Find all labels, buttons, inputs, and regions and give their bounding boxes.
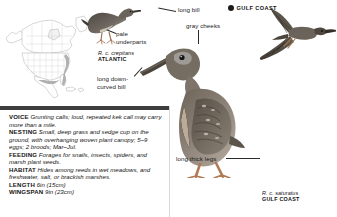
subspecies-caption-atlantic: R. c. crepitans ATLANTIC <box>98 50 134 63</box>
subspecies-gulf-region: GULF COAST <box>262 196 300 202</box>
leader-line-long-bill <box>158 8 176 12</box>
subspecies-caption-gulf: R. c. saturatus GULF COAST <box>262 190 300 203</box>
info-row: HABITAT Hides among reeds in wet meadows… <box>9 166 164 181</box>
info-row-term: FEEDING <box>9 151 37 158</box>
info-panel-rows: VOICE Grunting calls; loud, repeated kek… <box>0 110 170 196</box>
info-panel-right-edge <box>169 106 170 217</box>
info-row: VOICE Grunting calls; loud, repeated kek… <box>9 113 164 128</box>
field-guide-page: long bill pale underparts long down- cur… <box>0 0 337 217</box>
info-row-term: WINGSPAN <box>9 188 43 195</box>
info-row-desc: 9in (23cm) <box>45 188 74 195</box>
info-row-term: NESTING <box>9 128 37 135</box>
info-row-term: LENGTH <box>9 181 35 188</box>
info-row-desc: 6in (15cm) <box>37 181 66 188</box>
bird-illustration-gulf-coast-flying <box>258 4 336 66</box>
info-row-term: VOICE <box>9 113 29 120</box>
info-row: LENGTH 6in (15cm) <box>9 181 164 189</box>
callout-long-down-curved-bill: long down- curved bill <box>97 75 128 90</box>
callout-pale-underparts: pale underparts <box>116 30 146 45</box>
info-row-desc: Grunting calls; loud, repeated kek call … <box>9 113 161 128</box>
leader-line-long-thick-legs <box>226 158 260 159</box>
gulf-coast-marker-label: GULF COAST <box>237 5 277 11</box>
callout-long-bill: long bill <box>178 6 200 14</box>
species-info-panel: VOICE Grunting calls; loud, repeated kek… <box>0 106 170 217</box>
callout-gray-cheeks: gray cheeks <box>186 22 220 30</box>
callout-long-thick-legs: long thick legs <box>176 155 216 163</box>
gulf-coast-marker: GULF COAST <box>228 5 277 11</box>
leader-line-gray-cheeks <box>198 30 199 44</box>
info-row-term: HABITAT <box>9 166 36 173</box>
info-row: FEEDING Forages for snails, insects, spi… <box>9 151 164 166</box>
circle-bullet-icon <box>228 5 234 11</box>
info-row: NESTING Small, deep grass and sedge cup … <box>9 128 164 151</box>
subspecies-atlantic-region: ATLANTIC <box>98 56 134 62</box>
info-row: WINGSPAN 9in (23cm) <box>9 188 164 196</box>
